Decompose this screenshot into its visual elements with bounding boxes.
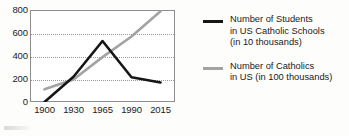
y-axis: 0200400600800 xyxy=(0,10,28,102)
x-axis: 19001930196519902015 xyxy=(30,105,175,119)
series-layer xyxy=(30,10,175,102)
y-tick-label: 0 xyxy=(2,97,28,107)
x-tick-label: 1965 xyxy=(92,105,113,115)
y-tick-label: 800 xyxy=(2,5,28,15)
legend-label-catholics: Number of Catholics in US (in 100 thousa… xyxy=(230,61,349,84)
chart-page: 0200400600800 19001930196519902015 Numbe… xyxy=(0,0,349,136)
y-tick-label: 400 xyxy=(2,51,28,61)
y-tick-label: 600 xyxy=(2,28,28,38)
legend-catholics-line-1: Number of Catholics xyxy=(230,61,349,73)
gray-line-swatch xyxy=(203,67,223,70)
black-line-swatch xyxy=(203,20,223,23)
series-line-catholics xyxy=(45,11,161,89)
legend-entry-catholics: Number of Catholics in US (in 100 thousa… xyxy=(203,61,349,95)
chart-legend: Number of Students in US Catholic School… xyxy=(203,14,349,107)
legend-students-line-3: (in 10 thousands) xyxy=(230,37,349,49)
legend-label-students: Number of Students in US Catholic School… xyxy=(230,14,349,49)
legend-entry-students: Number of Students in US Catholic School… xyxy=(203,14,349,49)
legend-students-line-1: Number of Students xyxy=(230,14,349,26)
x-tick-label: 1930 xyxy=(63,105,84,115)
legend-catholics-line-2: in US (in 100 thousands) xyxy=(230,72,349,84)
series-line-students xyxy=(45,41,161,102)
y-tick-label: 200 xyxy=(2,74,28,84)
x-tick-label: 1900 xyxy=(34,105,55,115)
x-tick-label: 1990 xyxy=(121,105,142,115)
line-chart: 0200400600800 19001930196519902015 xyxy=(0,0,180,136)
x-tick-label: 2015 xyxy=(150,105,171,115)
scan-artifact xyxy=(4,126,30,130)
legend-students-line-2: in US Catholic Schools xyxy=(230,26,349,38)
